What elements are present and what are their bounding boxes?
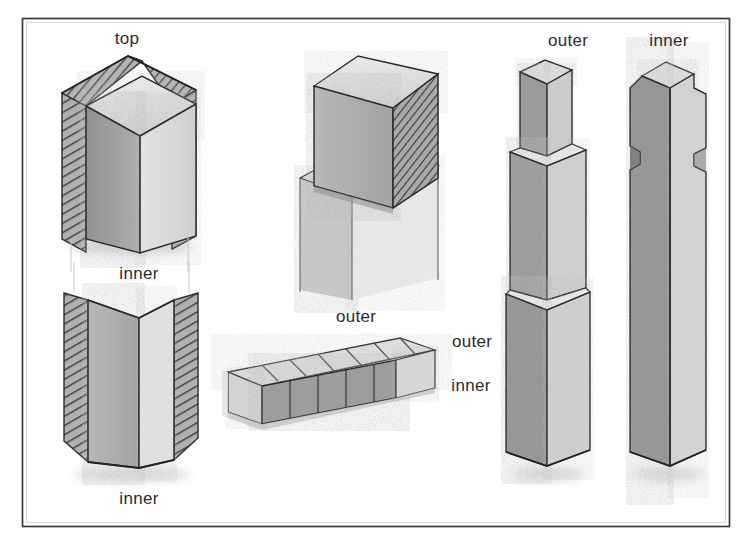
label-inner-right-post: inner xyxy=(649,31,688,50)
outer-tenon-left-face xyxy=(520,72,547,156)
inner-post-right-face-notched xyxy=(670,74,706,466)
lower-core-right-face xyxy=(139,300,174,468)
label-outer-right-post: outer xyxy=(548,31,588,50)
figure-canvas: top inner inner outer outer inner outer … xyxy=(0,0,752,551)
inner-post-left-face-notched xyxy=(630,76,670,466)
outer-post-shadow xyxy=(512,467,584,481)
hollow-post-upper-section xyxy=(62,56,196,272)
lower-core-left-face xyxy=(88,300,139,468)
slab-fade-left xyxy=(222,370,228,418)
outer-tenon-right-face xyxy=(547,70,572,156)
illustration-plate: top inner inner outer outer inner outer … xyxy=(0,0,752,551)
label-inner-callout: inner xyxy=(451,376,490,395)
exploded-post-cap-joint xyxy=(300,56,438,300)
label-top: top xyxy=(115,29,140,48)
label-inner-mid-left: inner xyxy=(119,264,158,283)
outer-post-body-left-upper xyxy=(510,152,547,300)
lower-shell-left-hatched xyxy=(64,293,88,462)
shell-wall-left-hatched xyxy=(62,93,86,252)
post-lower-shadow xyxy=(74,466,190,482)
outer-post-body-right-lower xyxy=(547,292,590,466)
label-inner-bottom-left: inner xyxy=(119,489,158,508)
label-outer-slab: outer xyxy=(336,307,376,326)
inner-post-with-notches xyxy=(630,62,706,481)
label-outer-callout: outer xyxy=(452,332,492,351)
inner-post-shadow xyxy=(632,467,704,481)
outer-post-body-left-lower xyxy=(506,294,547,466)
outer-post-body-right-upper xyxy=(547,150,586,300)
lower-shell-right-hatched xyxy=(174,293,198,460)
